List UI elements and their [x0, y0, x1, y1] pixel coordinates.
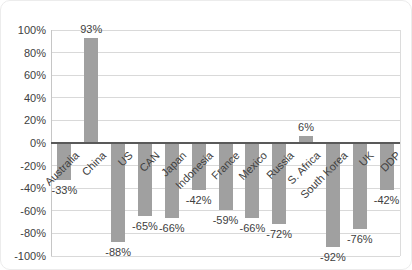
gridline	[51, 52, 400, 53]
gridline	[51, 120, 400, 121]
bar-data-label: 6%	[281, 120, 331, 134]
y-axis-tick-label: 60%	[1, 68, 46, 82]
y-axis-tick-label: 100%	[1, 23, 46, 37]
bar-data-label: -66%	[147, 221, 197, 235]
bar-data-label: -88%	[93, 245, 143, 259]
y-axis-tick-label: 0%	[1, 136, 46, 150]
bar-data-label: -76%	[335, 232, 385, 246]
bar-data-label: -72%	[254, 227, 304, 241]
y-axis-tick-label: -20%	[1, 159, 46, 173]
category-label: China	[79, 149, 109, 179]
bar-data-label: -92%	[308, 250, 358, 264]
y-axis-tick-label: 80%	[1, 46, 46, 60]
plot-right-border	[400, 30, 401, 256]
bar-data-label: -42%	[362, 193, 412, 207]
y-axis-tick-label: 20%	[1, 113, 46, 127]
zero-axis-line	[51, 142, 400, 144]
gridline	[51, 75, 400, 76]
y-axis-tick-label: 40%	[1, 91, 46, 105]
y-axis-tick-label: -80%	[1, 226, 46, 240]
bar-chart: 100%80%60%40%20%0%-20%-40%-60%-80%-100%-…	[0, 0, 412, 270]
bar-data-label: 93%	[66, 22, 116, 36]
bar-data-label: -42%	[174, 193, 224, 207]
y-axis-tick-label: -100%	[1, 249, 46, 263]
y-axis-tick-label: -60%	[1, 204, 46, 218]
bar-china	[84, 38, 98, 143]
gridline	[51, 210, 400, 211]
bar-data-label: -33%	[39, 183, 89, 197]
gridline	[51, 97, 400, 98]
